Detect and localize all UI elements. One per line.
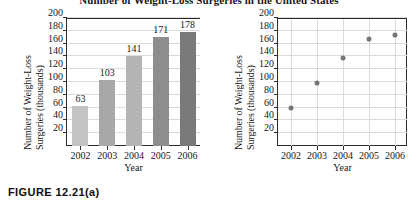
y-axis-title-line1: Number of Weight-Loss — [233, 55, 244, 150]
y-tick-label: 80 — [264, 85, 274, 95]
plot-right-border — [406, 19, 407, 146]
y-axis-title-line2: Surgeries (thousands) — [245, 65, 256, 150]
x-tick-label: 2006 — [385, 150, 405, 161]
gridline-horizontal — [67, 17, 200, 18]
x-tick-label: 2004 — [333, 150, 353, 161]
figure-panel-b: Number of Weight-Loss Surgeries (thousan… — [209, 0, 418, 208]
bar-2003 — [99, 80, 115, 146]
y-tick-label: 40 — [53, 110, 63, 120]
x-tick-label: 2003 — [307, 150, 327, 161]
y-tick-mark — [63, 17, 67, 18]
y-tick-label: 20 — [264, 123, 274, 133]
bar-chart-plot-area: 20018016014012010080604020 6310314117117… — [66, 18, 200, 146]
y-tick-label: 140 — [259, 46, 274, 56]
y-tick-label: 200 — [259, 8, 274, 18]
scatter-point-2002 — [289, 106, 294, 111]
scatter-point-2004 — [341, 56, 346, 61]
bar-value-label: 171 — [153, 25, 168, 35]
y-tick-mark — [274, 43, 278, 44]
y-tick-label: 20 — [53, 123, 63, 133]
y-tick-label: 100 — [48, 72, 63, 82]
y-tick-label: 60 — [264, 98, 274, 108]
y-tick-label: 160 — [259, 34, 274, 44]
x-tick-label: 2006 — [178, 150, 198, 161]
bar-value-label: 178 — [180, 20, 195, 30]
y-tick-mark — [63, 132, 67, 133]
y-tick-mark — [274, 55, 278, 56]
scatter-point-2003 — [315, 80, 320, 85]
y-tick-mark — [63, 119, 67, 120]
y-tick-mark — [63, 107, 67, 108]
y-tick-mark — [63, 68, 67, 69]
gridline-vertical — [343, 19, 344, 146]
x-axis-title: Year — [67, 162, 200, 173]
scatter-point-2005 — [367, 37, 372, 42]
y-tick-label: 180 — [259, 21, 274, 31]
y-tick-mark — [274, 81, 278, 82]
y-tick-label: 100 — [259, 72, 274, 82]
scatter-chart-plot-area: 20018016014012010080604020 2002200320042… — [277, 18, 407, 146]
y-tick-mark — [63, 94, 67, 95]
x-axis-title: Year — [278, 162, 407, 173]
gridline-vertical — [291, 19, 292, 146]
x-tick-label: 2005 — [359, 150, 379, 161]
y-axis-title-line1: Number of Weight-Loss — [22, 55, 33, 150]
y-tick-mark — [63, 81, 67, 82]
y-tick-mark — [274, 68, 278, 69]
y-tick-label: 180 — [48, 21, 63, 31]
y-tick-mark — [63, 30, 67, 31]
bar-value-label: 63 — [75, 94, 85, 104]
y-tick-mark — [274, 107, 278, 108]
y-tick-label: 200 — [48, 8, 63, 18]
x-tick-label: 2005 — [151, 150, 171, 161]
y-tick-label: 140 — [48, 46, 63, 56]
bar-2006 — [180, 32, 196, 146]
x-tick-label: 2002 — [281, 150, 301, 161]
y-tick-label: 160 — [48, 34, 63, 44]
y-tick-label: 120 — [259, 59, 274, 69]
y-tick-mark — [274, 17, 278, 18]
bar-2005 — [153, 37, 169, 146]
bar-value-label: 103 — [100, 68, 115, 78]
y-tick-label: 60 — [53, 98, 63, 108]
y-axis-title-line2: Surgeries (thousands) — [34, 65, 45, 150]
y-tick-mark — [63, 43, 67, 44]
y-tick-label: 80 — [53, 85, 63, 95]
gridline-horizontal — [278, 17, 407, 18]
y-tick-mark — [63, 55, 67, 56]
y-tick-mark — [274, 132, 278, 133]
bar-2002 — [72, 106, 88, 146]
y-tick-mark — [274, 119, 278, 120]
x-tick-label: 2002 — [70, 150, 90, 161]
y-tick-mark — [274, 94, 278, 95]
y-tick-mark — [274, 30, 278, 31]
bar-value-label: 141 — [127, 44, 142, 54]
figure-panel-a: Number of Weight-Loss Surgeries (thousan… — [0, 0, 209, 208]
x-tick-label: 2004 — [124, 150, 144, 161]
y-tick-label: 120 — [48, 59, 63, 69]
bar-2004 — [126, 56, 142, 146]
gridline-vertical — [395, 19, 396, 146]
y-tick-label: 40 — [264, 110, 274, 120]
figure-caption-a: FIGURE 12.21(a) — [8, 186, 100, 198]
x-tick-label: 2003 — [97, 150, 117, 161]
scatter-point-2006 — [393, 32, 398, 37]
